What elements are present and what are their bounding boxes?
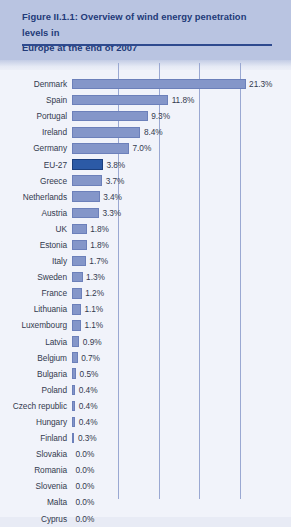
bar-eu-27 — [72, 159, 103, 170]
bar-value-label: 21.3% — [246, 79, 273, 89]
chart-row: Greece3.7% — [0, 173, 291, 189]
chart-row: Ireland8.4% — [0, 124, 291, 140]
chart-row: Belgium0.7% — [0, 350, 291, 366]
figure-title-line-1: Figure II.1.1: Overview of wind energy p… — [22, 9, 273, 40]
bar-track: 3.3% — [72, 205, 291, 221]
bar-track: 3.7% — [72, 173, 291, 189]
bar-track: 0.3% — [72, 430, 291, 446]
bar-track: 7.0% — [72, 140, 291, 156]
bar-germany — [72, 143, 129, 154]
chart-row: Slovakia0.0% — [0, 446, 291, 462]
bar-italy — [72, 256, 86, 267]
bar-track: 0.9% — [72, 334, 291, 350]
bar-value-label: 0.4% — [75, 385, 97, 395]
chart-row: Czech republic0.4% — [0, 398, 291, 414]
category-label-uk: UK — [0, 224, 72, 234]
bar-value-label: 1.3% — [83, 272, 105, 282]
bar-value-label: 1.7% — [86, 256, 108, 266]
bar-greece — [72, 175, 102, 186]
category-label-eu-27: EU-27 — [0, 160, 72, 170]
bar-track: 0.7% — [72, 350, 291, 366]
bar-track: 0.5% — [72, 366, 291, 382]
chart-row: Latvia0.9% — [0, 334, 291, 350]
chart-row: Slovenia0.0% — [0, 478, 291, 494]
category-label-slovenia: Slovenia — [0, 481, 72, 491]
bar-ireland — [72, 127, 140, 138]
bar-austria — [72, 208, 99, 219]
bar-value-label: 8.4% — [140, 127, 162, 137]
chart-row: Hungary0.4% — [0, 414, 291, 430]
bar-track: 1.3% — [72, 269, 291, 285]
chart-bar-rows: Denmark21.3%Spain11.8%Portugal9.3%Irelan… — [0, 76, 291, 527]
chart-row: Poland0.4% — [0, 382, 291, 398]
category-label-bulgaria: Bulgaria — [0, 369, 72, 379]
bar-value-label: 3.4% — [100, 192, 122, 202]
bar-value-label: 0.0% — [72, 449, 94, 459]
chart-row: Finland0.3% — [0, 430, 291, 446]
bar-track: 0.4% — [72, 414, 291, 430]
category-label-belgium: Belgium — [0, 353, 72, 363]
category-label-czech-republic: Czech republic — [0, 401, 72, 411]
bar-track: 9.3% — [72, 108, 291, 124]
category-label-sweden: Sweden — [0, 272, 72, 282]
bar-estonia — [72, 240, 87, 251]
bar-denmark — [72, 79, 246, 90]
category-label-hungary: Hungary — [0, 417, 72, 427]
category-label-france: France — [0, 288, 72, 298]
chart-row: UK1.8% — [0, 221, 291, 237]
bar-luxembourg — [72, 320, 81, 331]
bar-portugal — [72, 111, 148, 122]
bar-value-label: 1.2% — [82, 288, 104, 298]
category-label-portugal: Portugal — [0, 111, 72, 121]
chart-row: Italy1.7% — [0, 253, 291, 269]
category-label-denmark: Denmark — [0, 79, 72, 89]
bar-track: 0.0% — [72, 478, 291, 494]
bar-track: 3.8% — [72, 156, 291, 172]
bar-value-label: 3.3% — [99, 208, 121, 218]
bar-value-label: 0.9% — [79, 337, 101, 347]
bar-track: 1.7% — [72, 253, 291, 269]
category-label-austria: Austria — [0, 208, 72, 218]
bar-value-label: 11.8% — [168, 95, 194, 105]
category-label-ireland: Ireland — [0, 127, 72, 137]
bar-track: 0.4% — [72, 398, 291, 414]
chart-row: Luxembourg1.1% — [0, 317, 291, 333]
chart-row: France1.2% — [0, 285, 291, 301]
bar-track: 1.8% — [72, 237, 291, 253]
bar-value-label: 3.8% — [103, 160, 125, 170]
chart-row: Malta0.0% — [0, 494, 291, 510]
bar-value-label: 0.0% — [72, 481, 94, 491]
figure-title-band: Figure II.1.1: Overview of wind energy p… — [0, 0, 291, 60]
chart-row: Sweden1.3% — [0, 269, 291, 285]
bar-value-label: 1.8% — [87, 240, 109, 250]
category-label-greece: Greece — [0, 176, 72, 186]
bar-track: 1.2% — [72, 285, 291, 301]
bar-track: 8.4% — [72, 124, 291, 140]
bar-track: 11.8% — [72, 92, 291, 108]
category-label-germany: Germany — [0, 143, 72, 153]
chart-plot-area: Denmark21.3%Spain11.8%Portugal9.3%Irelan… — [0, 70, 291, 517]
bar-value-label: 0.4% — [75, 401, 97, 411]
bar-value-label: 0.0% — [72, 465, 94, 475]
category-label-spain: Spain — [0, 95, 72, 105]
bar-value-label: 0.7% — [78, 353, 100, 363]
bar-value-label: 1.1% — [81, 320, 103, 330]
chart-row: Germany7.0% — [0, 140, 291, 156]
bar-value-label: 0.3% — [74, 433, 96, 443]
category-label-lithuania: Lithuania — [0, 304, 72, 314]
bar-track: 0.4% — [72, 382, 291, 398]
bar-value-label: 3.7% — [102, 176, 124, 186]
bar-value-label: 0.0% — [72, 514, 94, 524]
bar-france — [72, 288, 82, 299]
bar-value-label: 0.4% — [75, 417, 97, 427]
bar-uk — [72, 224, 87, 235]
bar-track: 0.0% — [72, 494, 291, 510]
title-underline-rule — [22, 44, 272, 46]
category-label-cyprus: Cyprus — [0, 514, 72, 524]
bar-track: 0.0% — [72, 511, 291, 527]
figure-title-line-2: Europe at the end of 2007 — [22, 40, 273, 56]
bar-track: 3.4% — [72, 189, 291, 205]
bar-value-label: 7.0% — [129, 143, 151, 153]
chart-row: EU-273.8% — [0, 156, 291, 172]
